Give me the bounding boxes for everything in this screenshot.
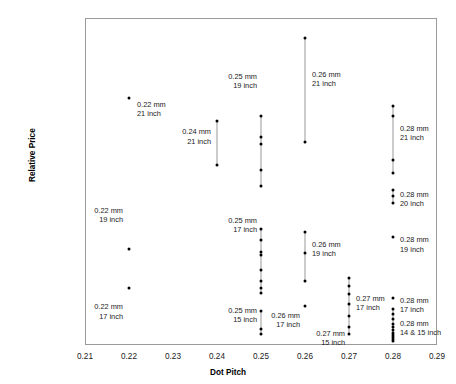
y-axis-title: Relative Price (28, 128, 37, 182)
x-axis-tick-label: 0.25 (253, 352, 269, 361)
x-axis-tick-label: 0.22 (121, 352, 137, 361)
plot-frame (85, 18, 437, 345)
x-axis-tick-label: 0.29 (429, 352, 445, 361)
x-axis-tick-label: 0.21 (77, 352, 93, 361)
x-axis-tick-label: 0.23 (165, 352, 181, 361)
x-axis-tick-label: 0.26 (297, 352, 313, 361)
scatter-plot-figure: 0.22 mm21 inch0.22 mm19 inch0.22 mm17 in… (0, 0, 456, 384)
x-axis-tick-label: 0.24 (209, 352, 225, 361)
x-axis-tick-label: 0.28 (385, 352, 401, 361)
x-axis-title: Dot Pitch (0, 368, 456, 377)
x-axis-tick-label: 0.27 (341, 352, 357, 361)
